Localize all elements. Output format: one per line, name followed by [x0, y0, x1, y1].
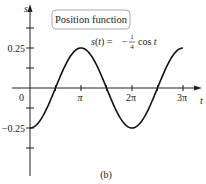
title-box: Position function: [52, 10, 130, 29]
equation-label: s(t) = − 1 4 cos t: [91, 33, 157, 51]
figure-caption: (b): [100, 169, 112, 181]
position-function-chart: Position function s(t) = − 1 4 cos t s t…: [0, 0, 206, 184]
x-tick-label-pi: π: [77, 92, 83, 103]
chart-title: Position function: [55, 14, 128, 25]
y-axis-arrow-icon: [28, 4, 33, 12]
x-tick-label-2pi: 2π: [126, 92, 136, 103]
y-axis-label: s: [24, 3, 28, 14]
equation-minus: −: [122, 36, 128, 47]
y-tick-label-0.25: 0.25: [8, 43, 26, 54]
x-axis-arrow-icon: [194, 86, 202, 91]
x-axis-label: t: [200, 95, 203, 106]
equation-rhs: cos t: [138, 36, 157, 47]
equation-denominator: 4: [130, 43, 134, 51]
equation-numerator: 1: [130, 33, 134, 41]
y-tick-label-neg-0.25: −0.25: [2, 123, 25, 134]
y-tick-label-0: 0: [19, 92, 24, 103]
x-tick-label-3pi: 3π: [177, 92, 187, 103]
equation-lhs: s(t) =: [91, 36, 113, 48]
